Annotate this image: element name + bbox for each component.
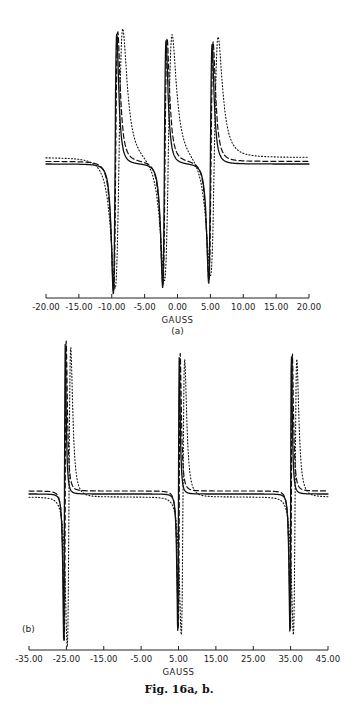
series-line-solid — [29, 345, 328, 641]
x-tick-label: 5.00 — [201, 302, 220, 312]
x-tick-label: -5.00 — [130, 654, 152, 664]
series-line-solid — [46, 34, 309, 294]
x-axis-title: GAUSS — [163, 667, 195, 677]
x-tick-label: 20.00 — [297, 302, 321, 312]
x-tick-label: 45.00 — [316, 654, 340, 664]
series-line-dotted — [46, 29, 309, 289]
x-tick-label: -25.00 — [53, 654, 80, 664]
x-tick-label: -15.00 — [90, 654, 117, 664]
x-tick-label: 0.00 — [168, 302, 187, 312]
x-axis-title: GAUSS — [162, 315, 194, 325]
x-tick-label: -10.00 — [98, 302, 125, 312]
panel-label: (b) — [22, 624, 35, 634]
figure-canvas: -20.00-15.00-10.00-5.000.005.0010.0015.0… — [0, 0, 358, 722]
figure-caption: Fig. 16a, b. — [145, 683, 214, 696]
x-tick-label: 25.00 — [241, 654, 265, 664]
x-tick-label: 15.00 — [204, 654, 228, 664]
x-tick-label: -15.00 — [65, 302, 92, 312]
x-tick-label: -20.00 — [32, 302, 59, 312]
x-tick-label: 15.00 — [264, 302, 288, 312]
series-line-dashed — [46, 32, 309, 292]
x-tick-label: 5.00 — [169, 654, 188, 664]
x-tick-label: -5.00 — [134, 302, 156, 312]
panel-label: (a) — [171, 326, 184, 336]
x-tick-label: 10.00 — [231, 302, 255, 312]
x-tick-label: 35.00 — [278, 654, 302, 664]
x-tick-label: -35.00 — [15, 654, 42, 664]
